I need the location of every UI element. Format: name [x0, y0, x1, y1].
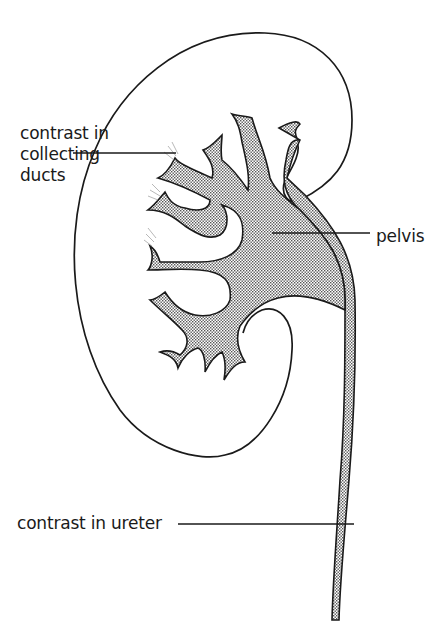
label-contrast-in-ureter: contrast in ureter	[17, 513, 162, 534]
pelvis-body	[148, 114, 345, 380]
label-line-1: contrast in	[20, 123, 109, 144]
label-line-2: collecting	[20, 144, 109, 165]
label-pelvis: pelvis	[376, 226, 424, 247]
label-contrast-in-collecting-ducts: contrast in collecting ducts	[20, 123, 109, 186]
collecting-duct-hatching	[144, 142, 178, 246]
kidney-diagram	[0, 0, 440, 634]
label-line-3: ducts	[20, 165, 109, 186]
